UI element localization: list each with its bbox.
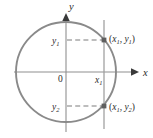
x-axis-label: x [142, 67, 148, 78]
lower-intersection-point-marker [102, 104, 107, 109]
svg-text:y1: y1 [51, 36, 59, 47]
lower-label-close-paren: ) [132, 102, 135, 113]
svg-text:(x1, y1): (x1, y1) [109, 34, 135, 45]
upper-label-close-paren: ) [132, 34, 135, 45]
x-axis-arrowhead-icon [131, 68, 139, 75]
y1-tick-label: y1 [51, 36, 59, 47]
y-axis-group: y [62, 1, 74, 132]
upper-point-coordinate-label: (x1, y1) [109, 34, 135, 45]
x1-tick-label: x1 [94, 75, 102, 86]
svg-text:x1: x1 [94, 75, 102, 86]
figure-container: x y 0 x1 y1 [0, 0, 153, 138]
y-axis-arrowhead-icon [62, 13, 69, 21]
y2-tick-sub: 2 [56, 106, 60, 113]
x-axis-group: x [14, 67, 148, 78]
svg-text:y2: y2 [51, 102, 60, 113]
y-axis-label: y [68, 1, 74, 12]
svg-text:(x1, y2): (x1, y2) [109, 102, 135, 113]
circle-vertical-line-figure: x y 0 x1 y1 [0, 0, 153, 138]
upper-intersection-point-marker [102, 38, 107, 43]
lower-point-coordinate-label: (x1, y2) [109, 102, 135, 113]
origin-label: 0 [58, 74, 63, 84]
y1-tick-sub: 1 [56, 40, 59, 47]
x1-tick-sub: 1 [99, 79, 102, 86]
y2-tick-label: y2 [51, 102, 60, 113]
